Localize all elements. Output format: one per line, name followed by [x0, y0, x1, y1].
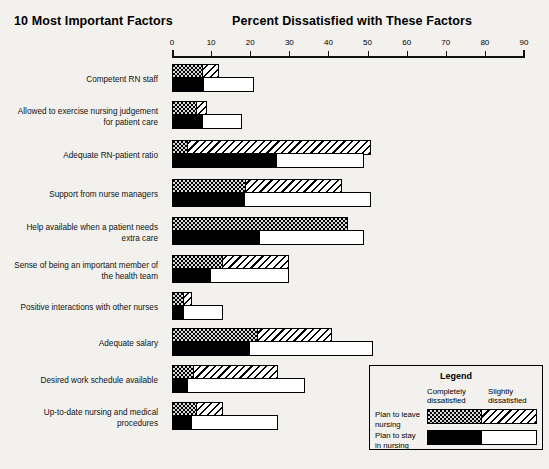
x-axis-tick-mark	[328, 51, 329, 58]
category-label: Adequate salary	[99, 339, 158, 350]
bar-plan-to-stay	[172, 305, 223, 320]
bar-plan-to-stay-slightly-segment	[203, 115, 241, 128]
bar-plan-to-stay-completely-segment	[173, 269, 211, 282]
bar-plan-to-stay	[172, 230, 364, 245]
x-axis-tick-label: 80	[480, 38, 489, 47]
bar-plan-to-stay-slightly-segment	[277, 154, 362, 167]
bar-plan-to-stay	[172, 378, 305, 393]
bar-plan-to-stay-slightly-segment	[250, 342, 372, 355]
x-axis-tick-label: 0	[170, 38, 174, 47]
bar-plan-to-stay-completely-segment	[173, 193, 245, 206]
bar-plan-to-stay	[172, 341, 373, 356]
x-axis-tick-label: 10	[207, 38, 216, 47]
page-title-left: 10 Most Important Factors	[14, 14, 173, 28]
category-label: Adequate RN-patient ratio	[63, 151, 158, 162]
x-axis-tick-mark	[289, 51, 290, 58]
x-axis-tick-mark	[446, 51, 447, 58]
bar-plan-to-stay-completely-segment	[173, 379, 188, 392]
bar-plan-to-stay	[172, 268, 289, 283]
bar-plan-to-stay-completely-segment	[173, 342, 250, 355]
legend-swatch-leave	[427, 409, 537, 424]
legend-swatch-leave-completely	[428, 410, 482, 423]
bar-plan-to-stay	[172, 153, 364, 168]
legend-swatch-stay	[427, 430, 537, 445]
legend-column-header-completely: Completely dissatisfied	[427, 387, 466, 405]
bar-plan-to-stay-slightly-segment	[188, 379, 304, 392]
x-axis-tick-mark	[407, 51, 408, 58]
page-title-right: Percent Dissatisfied with These Factors	[232, 14, 472, 28]
legend-swatch-stay-slightly	[482, 431, 536, 444]
bar-plan-to-stay-completely-segment	[173, 306, 184, 319]
category-label: Desired work schedule available	[41, 376, 158, 387]
legend-swatch-stay-completely	[428, 431, 482, 444]
bar-plan-to-stay-completely-segment	[173, 78, 204, 91]
legend: Legend Completely dissatisfied Slightly …	[369, 365, 543, 450]
x-axis-tick-mark	[211, 51, 212, 58]
bar-plan-to-stay-slightly-segment	[204, 78, 254, 91]
category-label: Positive interactions with other nurses	[21, 303, 158, 314]
bar-plan-to-stay-slightly-segment	[211, 269, 288, 282]
x-axis-tick-mark	[250, 51, 251, 58]
bar-plan-to-stay-slightly-segment	[192, 416, 276, 429]
legend-row-label-stay: Plan to stay in nursing	[375, 431, 416, 450]
x-axis-tick-label: 90	[520, 38, 529, 47]
bar-plan-to-stay-slightly-segment	[260, 231, 363, 244]
category-label: Support from nurse managers	[49, 190, 158, 201]
x-axis-tick-label: 30	[285, 38, 294, 47]
chart-canvas: 10 Most Important Factors Percent Dissat…	[0, 0, 549, 469]
bar-plan-to-stay	[172, 114, 242, 129]
x-axis-tick-label: 50	[363, 38, 372, 47]
x-axis-tick-label: 20	[246, 38, 255, 47]
legend-swatch-leave-slightly	[482, 410, 536, 423]
bar-plan-to-stay-slightly-segment	[184, 306, 222, 319]
category-label: Sense of being an important member of th…	[14, 261, 158, 282]
x-axis-tick-mark	[485, 51, 486, 58]
legend-row-label-leave: Plan to leave nursing	[375, 410, 420, 429]
bar-plan-to-stay-completely-segment	[173, 154, 277, 167]
bar-plan-to-stay	[172, 77, 254, 92]
x-axis-endcap	[523, 50, 525, 58]
category-label: Allowed to exercise nursing judgement fo…	[18, 107, 158, 128]
x-axis-tick-label: 70	[441, 38, 450, 47]
legend-title: Legend	[370, 371, 542, 381]
x-axis-tick-mark	[368, 51, 369, 58]
bar-plan-to-stay	[172, 192, 371, 207]
legend-column-header-slightly: Slightly dissatisfied	[488, 387, 527, 405]
bar-plan-to-stay-completely-segment	[173, 231, 260, 244]
bar-plan-to-stay-slightly-segment	[245, 193, 371, 206]
bar-plan-to-stay	[172, 415, 278, 430]
x-axis-tick-label: 60	[402, 38, 411, 47]
bar-plan-to-stay-completely-segment	[173, 416, 192, 429]
x-axis-endcap	[172, 50, 174, 58]
category-label: Help available when a patient needs extr…	[26, 223, 158, 244]
x-axis-tick-label: 40	[324, 38, 333, 47]
category-label: Competent RN staff	[86, 75, 158, 86]
bar-plan-to-stay-completely-segment	[173, 115, 203, 128]
x-axis-line	[172, 56, 524, 58]
category-label: Up-to-date nursing and medical procedure…	[44, 408, 158, 429]
